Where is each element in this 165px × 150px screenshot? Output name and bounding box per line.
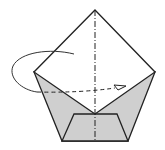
- origami-diagram: [0, 0, 165, 150]
